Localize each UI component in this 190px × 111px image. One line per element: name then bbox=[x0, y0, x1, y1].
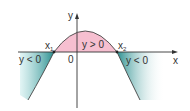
negative-region-left-label: y < 0 bbox=[19, 54, 41, 65]
x-axis-label: x bbox=[173, 55, 178, 66]
y-axis-label: y bbox=[68, 10, 73, 21]
positive-region-label: y > 0 bbox=[82, 39, 104, 50]
root-label-x2: x2 bbox=[118, 40, 127, 52]
parabola-diagram: y x 0 x1 x2 y > 0 y < 0 y < 0 bbox=[0, 0, 190, 111]
root-point-x2 bbox=[116, 51, 119, 54]
x-axis-arrow-icon bbox=[172, 50, 178, 54]
y-axis-arrow-icon bbox=[75, 13, 79, 19]
negative-region-right-label: y < 0 bbox=[126, 55, 148, 66]
root-label-x1: x1 bbox=[45, 40, 54, 52]
origin-label: 0 bbox=[68, 54, 74, 65]
